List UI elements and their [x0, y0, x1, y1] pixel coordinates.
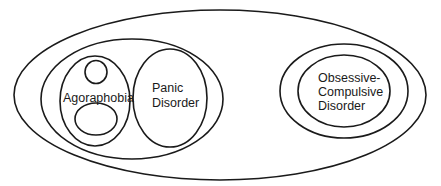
agoraphobia-lower-oval	[75, 103, 117, 135]
panic-label-line1: Panic	[152, 81, 183, 95]
agoraphobia-upper-circle	[85, 61, 107, 84]
ocd-label-line3: Disorder	[318, 99, 365, 113]
ocd-label-line1: Obsessive-	[318, 71, 381, 85]
anxiety-disorders-diagram: Agoraphobia Panic Disorder Obsessive- Co…	[0, 0, 441, 186]
agoraphobia-label: Agoraphobia	[63, 91, 134, 105]
ocd-label-line2: Compulsive	[318, 85, 383, 99]
panic-label-line2: Disorder	[152, 96, 199, 110]
